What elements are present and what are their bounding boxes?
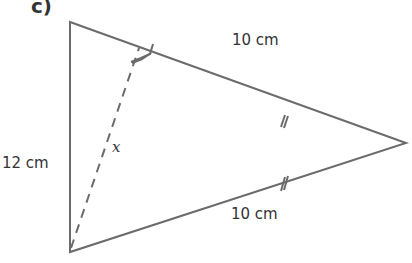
altitude-label: x [112, 138, 120, 156]
bottom-side-label: 10 cm [231, 205, 278, 223]
altitude-dashed [71, 48, 139, 248]
triangle-diagram [0, 0, 412, 263]
left-side-label: 12 cm [2, 154, 49, 172]
top-side-label: 10 cm [232, 31, 279, 49]
